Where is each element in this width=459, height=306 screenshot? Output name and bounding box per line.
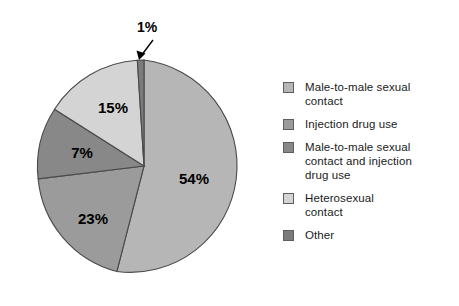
legend-swatch-male-to-male-and-injection [283,142,294,153]
legend-swatch-injection-drug-use [283,119,294,130]
legend-item-male-to-male-sexual-contact: Male-to-male sexual contact [283,80,459,108]
legend-item-male-to-male-and-injection: Male-to-male sexual contact and injectio… [283,140,459,182]
legend-item-other: Other [283,228,459,242]
slice-label-injection-drug-use: 23% [78,210,108,227]
legend-swatch-male-to-male-sexual-contact [283,82,294,93]
legend-label-injection-drug-use: Injection drug use [305,117,398,131]
legend-label-other: Other [305,228,334,242]
slice-label-male-to-male-and-injection: 7% [71,144,93,161]
slice-label-male-to-male-sexual-contact: 54% [179,170,209,187]
legend-item-injection-drug-use: Injection drug use [283,117,459,131]
legend-swatch-other [283,230,294,241]
slice-label-heterosexual-contact: 15% [98,99,128,116]
slice-label-other: 1% [137,19,158,35]
legend-swatch-heterosexual-contact [283,193,294,204]
chart-legend: Male-to-male sexual contact Injection dr… [283,80,459,251]
legend-label-male-to-male-sexual-contact: Male-to-male sexual contact [305,80,410,108]
legend-label-heterosexual-contact: Heterosexual contact [305,191,374,219]
pie-chart-figure: 1% 54% 23% 7% 15% Male-to-male sexual co… [0,0,459,306]
legend-item-heterosexual-contact: Heterosexual contact [283,191,459,219]
pie-chart-area: 1% 54% 23% 7% 15% [0,0,275,306]
legend-label-male-to-male-and-injection: Male-to-male sexual contact and injectio… [305,140,412,182]
pie-chart-svg: 1% 54% 23% 7% 15% [0,0,275,306]
